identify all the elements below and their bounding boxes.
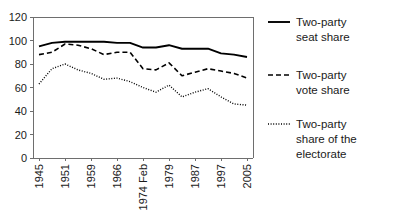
series-line-3 bbox=[39, 64, 247, 105]
chart-figure: 02040608010012019451951195919661974 Feb1… bbox=[0, 0, 396, 219]
chart-axes: 02040608010012019451951195919661974 Feb1… bbox=[9, 11, 253, 210]
x-tick-label: 1945 bbox=[33, 164, 45, 188]
legend-label-3: share of the bbox=[296, 133, 357, 145]
line-chart: 02040608010012019451951195919661974 Feb1… bbox=[0, 0, 396, 219]
x-tick-label: 2005 bbox=[241, 164, 253, 188]
legend-label-2: vote share bbox=[296, 84, 350, 96]
chart-series bbox=[39, 42, 247, 105]
y-tick-label: 20 bbox=[15, 129, 27, 141]
chart-legend: Two-partyseat shareTwo-partyvote shareTw… bbox=[268, 16, 357, 160]
legend-label-1: seat share bbox=[296, 31, 350, 43]
y-tick-label: 80 bbox=[15, 58, 27, 70]
y-tick-label: 40 bbox=[15, 105, 27, 117]
legend-label-2: Two-party bbox=[296, 69, 347, 81]
series-line-2 bbox=[39, 44, 247, 78]
x-tick-label: 1974 Feb bbox=[137, 164, 149, 210]
x-tick-label: 1997 bbox=[215, 164, 227, 188]
y-tick-label: 60 bbox=[15, 82, 27, 94]
x-tick-label: 1979 bbox=[163, 164, 175, 188]
legend-label-3: electorate bbox=[296, 148, 347, 160]
x-tick-label: 1959 bbox=[85, 164, 97, 188]
x-tick-label: 1987 bbox=[189, 164, 201, 188]
legend-label-3: Two-party bbox=[296, 118, 347, 130]
y-tick-label: 0 bbox=[21, 152, 27, 164]
x-tick-label: 1951 bbox=[59, 164, 71, 188]
legend-label-1: Two-party bbox=[296, 16, 347, 28]
y-tick-label: 100 bbox=[9, 35, 27, 47]
x-tick-label: 1966 bbox=[111, 164, 123, 188]
y-tick-label: 120 bbox=[9, 11, 27, 23]
